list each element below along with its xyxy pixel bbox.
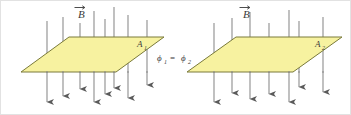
relation-phi-1: ϕ — [157, 53, 162, 63]
relation-phi-2-subscript: 2 — [188, 59, 191, 65]
relation-equals-sign: = — [170, 53, 175, 63]
left-area-plane — [21, 37, 164, 72]
relation-phi-2: ϕ — [181, 53, 186, 63]
left-panel: B A 1 — [21, 6, 164, 102]
right-area-label: A — [314, 39, 321, 49]
diagram-canvas: B A 1 ϕ 1 = ϕ 2 B A 2 — [1, 1, 351, 115]
magnetic-flux-diagram: B A 1 ϕ 1 = ϕ 2 B A 2 — [0, 0, 351, 115]
left-field-lines-front-group — [47, 71, 147, 102]
flux-equality-relation: ϕ 1 = ϕ 2 — [157, 53, 191, 65]
relation-phi-1-subscript: 1 — [164, 59, 167, 65]
right-field-lines-front-group — [214, 71, 323, 102]
left-field-label: B — [78, 8, 85, 20]
right-field-label: B — [243, 8, 250, 20]
left-area-label: A — [136, 39, 143, 49]
left-area-label-subscript: 1 — [144, 45, 147, 51]
right-panel: B A 2 — [187, 6, 342, 102]
right-area-label-subscript: 2 — [322, 45, 325, 51]
